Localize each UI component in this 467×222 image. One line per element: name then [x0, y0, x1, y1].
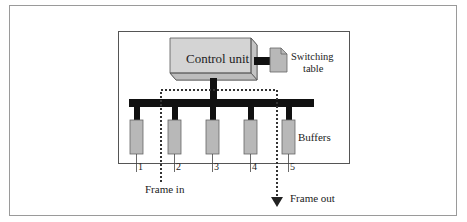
backplane-bus	[129, 99, 314, 107]
port-label-4: 4	[252, 162, 257, 172]
control-unit-label: Control unit	[186, 52, 249, 65]
buffer-5	[282, 120, 295, 154]
buffers-label: Buffers	[298, 132, 331, 143]
switching-table-label-line1: Switching	[291, 52, 334, 63]
port-label-3: 3	[214, 162, 219, 172]
arrow-down-icon	[271, 197, 283, 207]
buffer-2	[168, 120, 181, 154]
buffer-4	[244, 120, 257, 154]
buffers	[130, 106, 295, 172]
port-label-5: 5	[290, 162, 295, 172]
buffer-1	[130, 120, 143, 154]
buffer-3	[206, 120, 219, 154]
frame-out-label: Frame out	[290, 193, 335, 204]
switching-table-label-line2: table	[303, 64, 323, 75]
switch-diagram	[0, 0, 467, 222]
frame-in-label: Frame in	[145, 184, 184, 195]
table-connector	[254, 57, 270, 65]
port-label-1: 1	[138, 162, 143, 172]
port-label-2: 2	[176, 162, 181, 172]
switching-table-icon	[270, 48, 287, 72]
